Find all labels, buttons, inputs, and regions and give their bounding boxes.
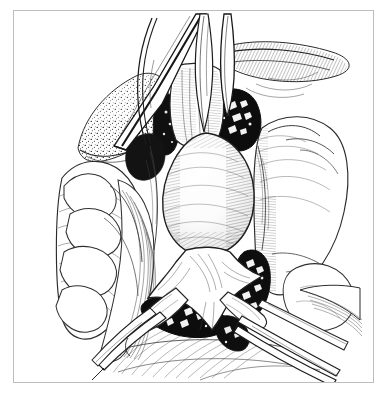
surgical-illustration [0,0,389,397]
figure-page: Open surgical exposure of an infrarenal … [0,0,389,397]
